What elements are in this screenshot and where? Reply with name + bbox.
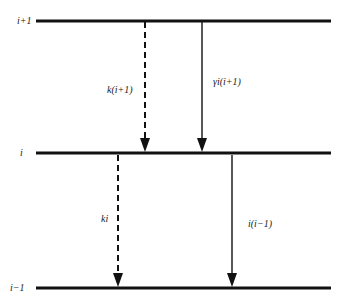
energy-level-diagram: i+1 i i−1 k(i+1) γi(i+1) ki i(i−1): [0, 0, 347, 306]
level-label-middle: i: [20, 147, 23, 158]
transition-gamma-middle: i(i−1): [227, 155, 273, 287]
transition-label-gamma-middle: i(i−1): [248, 218, 273, 230]
transition-label-k-upper: k(i+1): [107, 84, 133, 96]
transition-label-gamma-upper: γi(i+1): [213, 76, 242, 88]
level-label-upper: i+1: [17, 15, 32, 26]
transition-gamma-upper: γi(i+1): [197, 22, 242, 152]
transition-k-middle: ki: [101, 155, 123, 287]
level-label-lower: i−1: [10, 282, 25, 293]
transition-k-upper: k(i+1): [107, 22, 150, 152]
transition-label-k-middle: ki: [101, 213, 108, 224]
arrowhead-icon: [227, 273, 237, 287]
arrowhead-icon: [113, 273, 123, 287]
arrowhead-icon: [197, 138, 207, 152]
arrowhead-icon: [140, 138, 150, 152]
